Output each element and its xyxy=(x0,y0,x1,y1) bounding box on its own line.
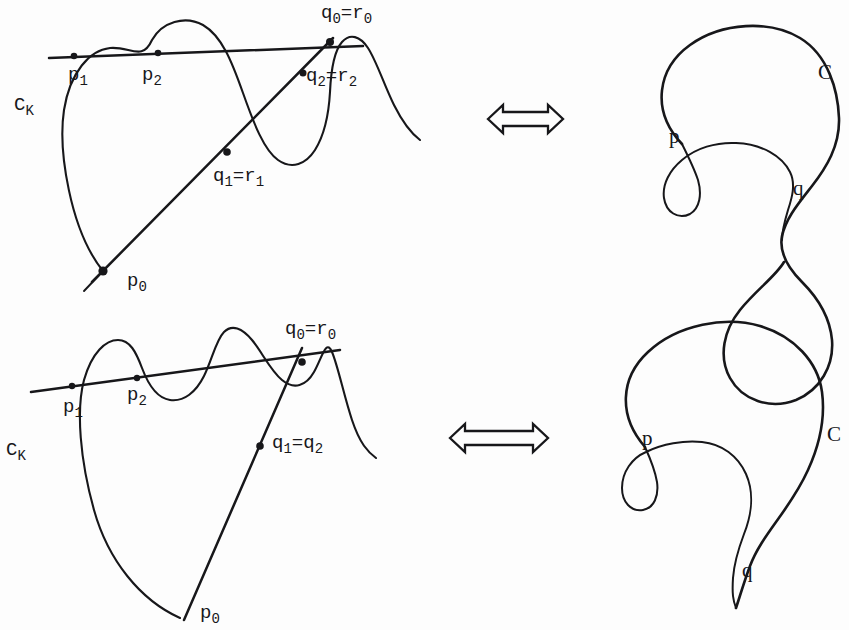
bottom-left-point-p1-dot xyxy=(69,383,75,389)
label-ck-bottom: CK xyxy=(6,441,26,463)
bottom-right-p-loop xyxy=(622,441,751,608)
label-p1-bottom: p1 xyxy=(63,398,83,420)
label-q0-equals-r0-bottom: q0=r0 xyxy=(285,320,336,342)
label-q0-equals-r0: q0=r0 xyxy=(321,4,372,26)
label-q2-equals-r2: q2=r2 xyxy=(306,67,357,89)
label-p0-top: p0 xyxy=(127,272,147,294)
label-c-bottom-right: C xyxy=(827,424,841,445)
label-p0-bottom: p0 xyxy=(200,604,220,626)
bottom-left-diagram xyxy=(31,328,376,620)
top-right-p-loop xyxy=(664,143,793,240)
top-left-point-q0r0-dot xyxy=(326,38,334,46)
bottom-left-point-q1q2-dot xyxy=(256,442,264,450)
label-q-top-right: q xyxy=(793,178,804,199)
top-left-point-p1-dot xyxy=(71,53,78,60)
bottom-left-chord-p0-q0 xyxy=(184,348,302,620)
label-p-bottom-right: p xyxy=(642,428,653,449)
top-left-chord-p0-q0 xyxy=(92,38,333,282)
top-left-diagram xyxy=(49,20,420,291)
label-ck-top: CK xyxy=(14,96,34,118)
double-arrow-icon xyxy=(450,424,548,452)
top-left-point-q1r1-dot xyxy=(223,148,231,156)
top-equivalence-arrow xyxy=(488,105,563,133)
top-left-point-p0-dot xyxy=(98,266,107,275)
bottom-left-point-p2-dot xyxy=(134,375,140,381)
diagram-canvas xyxy=(0,0,849,630)
top-right-diagram xyxy=(662,26,839,404)
label-p2-bottom: p2 xyxy=(127,386,147,408)
label-q1-equals-r1: q1=r1 xyxy=(213,167,264,189)
top-left-ck-curve xyxy=(63,20,420,271)
label-p2: p2 xyxy=(142,66,162,88)
label-c-top-right: C xyxy=(818,62,832,83)
figure-root: q0=r0 q2=r2 q1=r1 p1 p2 CK p0 C p q q0=r… xyxy=(0,0,849,630)
bottom-left-ck-curve xyxy=(80,328,376,618)
label-p-top-right: p xyxy=(669,126,680,147)
label-q-bottom-right: q xyxy=(742,560,753,581)
double-arrow-icon xyxy=(488,105,563,133)
bottom-equivalence-arrow xyxy=(450,424,548,452)
top-left-point-p2-dot xyxy=(155,50,162,57)
label-q1-equals-q2: q1=q2 xyxy=(272,434,323,456)
bottom-right-diagram xyxy=(622,322,823,608)
label-p1: p1 xyxy=(68,66,88,88)
bottom-left-point-q0r0-dot xyxy=(298,358,306,366)
